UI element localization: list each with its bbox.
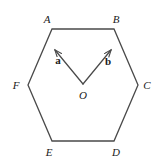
vertex-label-c: C — [143, 80, 150, 91]
hexagon-outline — [28, 29, 138, 141]
vertex-label-e: E — [46, 147, 53, 158]
centre-label-o: O — [79, 90, 87, 101]
vertex-label-d: D — [112, 147, 120, 158]
vertex-label-b: B — [113, 14, 120, 25]
diagram-canvas — [0, 0, 164, 167]
vertex-label-a: A — [44, 14, 51, 25]
vector-label-a: a — [55, 55, 61, 66]
vector-label-b: b — [105, 56, 111, 67]
vertex-label-f: F — [13, 80, 20, 91]
hexagon-vector-diagram: A B C D E F O a b — [0, 0, 164, 167]
